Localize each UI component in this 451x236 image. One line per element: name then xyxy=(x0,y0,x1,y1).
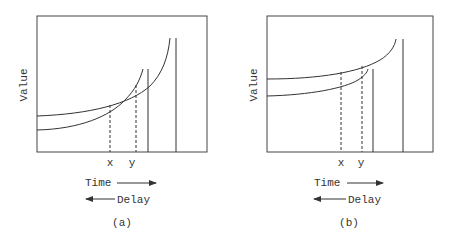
delay-label: Delay xyxy=(348,194,381,206)
plot-frame xyxy=(37,16,207,152)
marker-x-label: x xyxy=(107,157,114,169)
time-label: Time xyxy=(85,177,111,189)
panel-a: Value x y Time Delay (a) xyxy=(18,16,207,229)
marker-y-label: y xyxy=(129,157,136,169)
panel-caption: (a) xyxy=(112,217,132,229)
curve-upper xyxy=(267,39,396,79)
marker-x-label: x xyxy=(338,157,345,169)
panel-b: Value x y Time Delay (b) xyxy=(248,16,433,229)
y-axis-label: Value xyxy=(248,68,260,101)
delay-label: Delay xyxy=(117,194,150,206)
curve-upper xyxy=(37,38,170,116)
figure: Value x y Time Delay (a) Value x y Time … xyxy=(0,0,451,236)
curve-lower xyxy=(37,69,143,130)
panel-caption: (b) xyxy=(339,217,359,229)
curve-lower xyxy=(267,69,368,96)
time-label: Time xyxy=(314,177,340,189)
marker-y-label: y xyxy=(358,157,365,169)
y-axis-label: Value xyxy=(18,68,30,101)
